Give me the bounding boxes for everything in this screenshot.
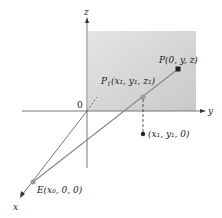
origin-label: 0 xyxy=(77,100,83,110)
z-axis-label: z xyxy=(83,7,89,17)
point-projection xyxy=(141,132,145,136)
point-P1 xyxy=(141,95,146,100)
x-axis-label: x xyxy=(13,202,18,212)
perspective-diagram: z y x 0 P(0, y, z) P1(x₁, y₁, z₁) E(x₀, … xyxy=(0,0,222,218)
label-projection: (x₁, y₁, 0) xyxy=(148,129,190,139)
point-P xyxy=(176,67,181,72)
label-E: E(x₀, 0, 0) xyxy=(36,185,83,195)
y-axis-arrow xyxy=(200,109,206,113)
z-axis-arrow xyxy=(85,17,89,23)
label-P1-coords: (x₁, y₁, z₁) xyxy=(111,76,156,86)
label-P: P(0, y, z) xyxy=(158,55,198,65)
point-E xyxy=(31,180,36,185)
y-axis-label: y xyxy=(207,106,214,116)
